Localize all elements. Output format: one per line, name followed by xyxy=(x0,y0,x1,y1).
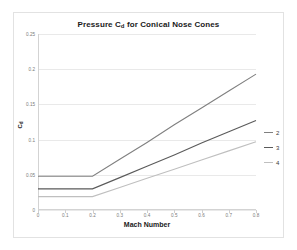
x-axis-tick-label: 0.7 xyxy=(226,213,232,218)
x-axis-tick-label: 0.6 xyxy=(198,213,204,218)
legend-label: 3 xyxy=(276,145,279,151)
plot-area: 00.050.10.150.20.25 00.10.20.30.40.50.60… xyxy=(38,34,256,210)
x-axis-tick-mark xyxy=(147,210,148,213)
y-axis-tick-label: 0.25 xyxy=(26,32,35,37)
x-axis-tick-label: 0 xyxy=(37,213,40,218)
y-axis-tick-label: 0 xyxy=(32,208,35,213)
chart-title-rest: for Conical Nose Cones xyxy=(125,20,220,29)
x-axis-tick-label: 0.8 xyxy=(253,213,259,218)
legend-item-4[interactable]: 4 xyxy=(264,155,294,170)
y-axis-tick-label: 0.2 xyxy=(29,67,35,72)
chart-title: Pressure Cd for Conical Nose Cones xyxy=(14,20,283,29)
x-axis-tick-mark xyxy=(256,210,257,213)
legend-item-3[interactable]: 3 xyxy=(264,140,294,155)
x-axis-tick-label: 0.4 xyxy=(144,213,150,218)
x-axis-title: Mach Number xyxy=(38,221,256,228)
x-axis-tick-label: 0.5 xyxy=(171,213,177,218)
x-axis-tick-mark xyxy=(38,210,39,213)
legend-swatch-icon xyxy=(264,162,273,163)
legend-label: 2 xyxy=(276,130,279,136)
series-lines xyxy=(38,34,256,210)
x-axis-tick-mark xyxy=(65,210,66,213)
x-axis-tick-mark xyxy=(202,210,203,213)
x-axis-tick-mark xyxy=(93,210,94,213)
chart-container: Pressure Cd for Conical Nose Cones Cd Ma… xyxy=(13,12,284,238)
y-axis-tick-label: 0.15 xyxy=(26,102,35,107)
x-axis-tick-label: 0.2 xyxy=(89,213,95,218)
chart-title-main: Pressure C xyxy=(78,20,121,29)
x-axis-tick-mark xyxy=(174,210,175,213)
legend: 234 xyxy=(264,125,294,170)
legend-label: 4 xyxy=(276,160,279,166)
series-line-2 xyxy=(38,74,256,176)
x-axis-tick-mark xyxy=(229,210,230,213)
legend-item-2[interactable]: 2 xyxy=(264,125,294,140)
x-axis-tick-label: 0.3 xyxy=(117,213,123,218)
y-axis-tick-label: 0.1 xyxy=(29,137,35,142)
x-axis-tick-mark xyxy=(120,210,121,213)
x-axis-tick-label: 0.1 xyxy=(62,213,68,218)
legend-swatch-icon xyxy=(264,132,273,133)
y-axis-title-main: C xyxy=(17,124,23,128)
y-axis-tick-label: 0.05 xyxy=(26,172,35,177)
y-axis-title: Cd xyxy=(17,121,24,128)
legend-swatch-icon xyxy=(264,147,273,148)
y-axis-title-subscript: d xyxy=(19,121,24,124)
